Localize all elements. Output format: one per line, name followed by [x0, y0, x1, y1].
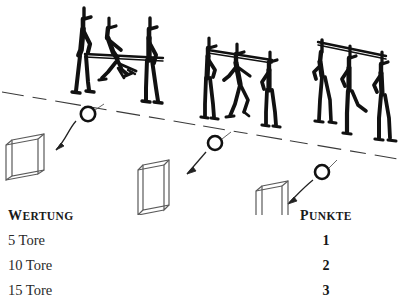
legend-row: 10 Tore 2 — [0, 253, 404, 278]
legend-points: 2 — [300, 253, 352, 278]
legend-points: 3 — [300, 278, 352, 303]
arrow-right — [288, 180, 313, 204]
stick-figure — [314, 40, 336, 123]
legend-criterion: 10 Tore — [8, 253, 52, 278]
ball-right — [315, 160, 337, 179]
legend-header-left: WERTUNG — [8, 203, 74, 229]
stick-figure — [72, 8, 94, 93]
legend-criterion: 5 Tore — [8, 228, 45, 253]
ground-line — [2, 92, 404, 160]
arrow-left — [56, 121, 76, 150]
illustration-svg — [0, 0, 404, 215]
goal-left — [6, 134, 44, 180]
illustration-figure — [0, 0, 404, 215]
page-root: WERTUNG PUNKTE 5 Tore 1 10 Tore 2 15 Tor… — [0, 0, 404, 305]
arrow-middle — [187, 152, 206, 174]
stick-figure — [342, 46, 366, 134]
legend-points: 1 — [300, 228, 352, 253]
legend-header-right: PUNKTE — [300, 203, 352, 229]
scoring-legend: WERTUNG PUNKTE 5 Tore 1 10 Tore 2 15 Tor… — [0, 203, 404, 305]
ball-middle — [208, 132, 231, 150]
legend-header-row: WERTUNG PUNKTE — [0, 203, 404, 228]
legend-row: 15 Tore 3 — [0, 278, 404, 303]
stick-figure — [374, 52, 396, 141]
left-group — [6, 8, 163, 180]
legend-row: 5 Tore 1 — [0, 228, 404, 253]
stick-figure — [262, 52, 280, 127]
ball-left — [81, 104, 104, 121]
legend-criterion: 15 Tore — [8, 278, 52, 303]
